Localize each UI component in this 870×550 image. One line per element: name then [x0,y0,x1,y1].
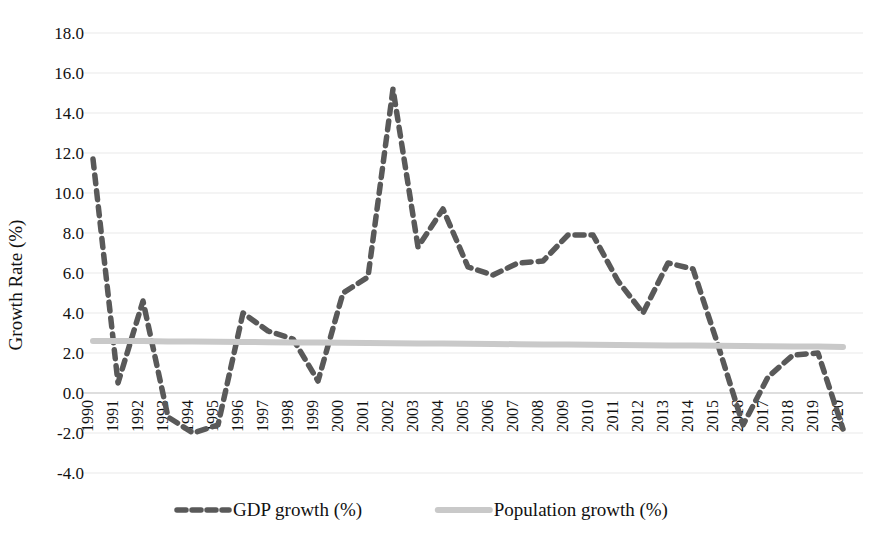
y-tick-label: 16.0 [54,64,84,83]
legend-label: Population growth (%) [494,499,668,521]
x-tick-label: 2015 [704,400,721,432]
y-tick-label: 2.0 [63,344,84,363]
y-tick-label: 10.0 [54,184,84,203]
series-lines-group [93,89,843,433]
x-tick-label: 1997 [254,400,271,432]
x-tick-label: 1999 [304,400,321,432]
x-tick-label: 2000 [329,400,346,432]
y-tick-label: 6.0 [63,264,84,283]
x-tick-label: 1992 [129,400,146,432]
gridlines-group [83,33,863,473]
y-tick-label: 14.0 [54,104,84,123]
x-tick-label: 2008 [529,400,546,432]
x-tick-label: 1990 [79,400,96,432]
y-tick-label: 12.0 [54,144,84,163]
legend-item[interactable]: GDP growth (%) [177,499,362,521]
y-tick-label: 18.0 [54,24,84,43]
x-tick-label: 2018 [779,400,796,432]
x-tick-label: 2019 [804,400,821,432]
x-tick-label: 2017 [754,400,771,432]
x-tick-label: 2001 [354,400,371,432]
series-line-population-growth [93,341,843,347]
x-tick-label: 2013 [654,400,671,432]
x-tick-label: 2006 [479,400,496,432]
legend-label: GDP growth (%) [233,499,362,521]
x-tick-label: 2009 [554,400,571,432]
x-tick-label: 2002 [379,400,396,432]
legend-item[interactable]: Population growth (%) [438,499,668,521]
x-tick-label: 1996 [229,400,246,432]
chart-container: 18.016.014.012.010.08.06.04.02.00.0-2.0-… [0,0,870,550]
growth-rate-line-chart: 18.016.014.012.010.08.06.04.02.00.0-2.0-… [0,0,870,550]
x-tick-label: 2014 [679,400,696,432]
series-line-gdp-growth [93,89,843,433]
x-tick-label: 2011 [604,400,621,431]
y-tick-label: -4.0 [57,464,84,483]
y-tick-label: 8.0 [63,224,84,243]
x-tick-label: 1998 [279,400,296,432]
legend: GDP growth (%)Population growth (%) [177,499,668,521]
x-axis-tick-labels: 1990199119921993199419951996199719981999… [79,400,846,432]
y-tick-label: 4.0 [63,304,84,323]
y-axis-title: Growth Rate (%) [5,220,27,351]
x-tick-label: 2004 [429,400,446,432]
x-tick-label: 2005 [454,400,471,432]
x-tick-label: 2003 [404,400,421,432]
y-axis-title-group: Growth Rate (%) [5,220,27,351]
x-tick-label: 1991 [104,400,121,432]
x-tick-label: 2010 [579,400,596,432]
x-tick-label: 2012 [629,400,646,432]
x-tick-label: 2007 [504,400,521,432]
